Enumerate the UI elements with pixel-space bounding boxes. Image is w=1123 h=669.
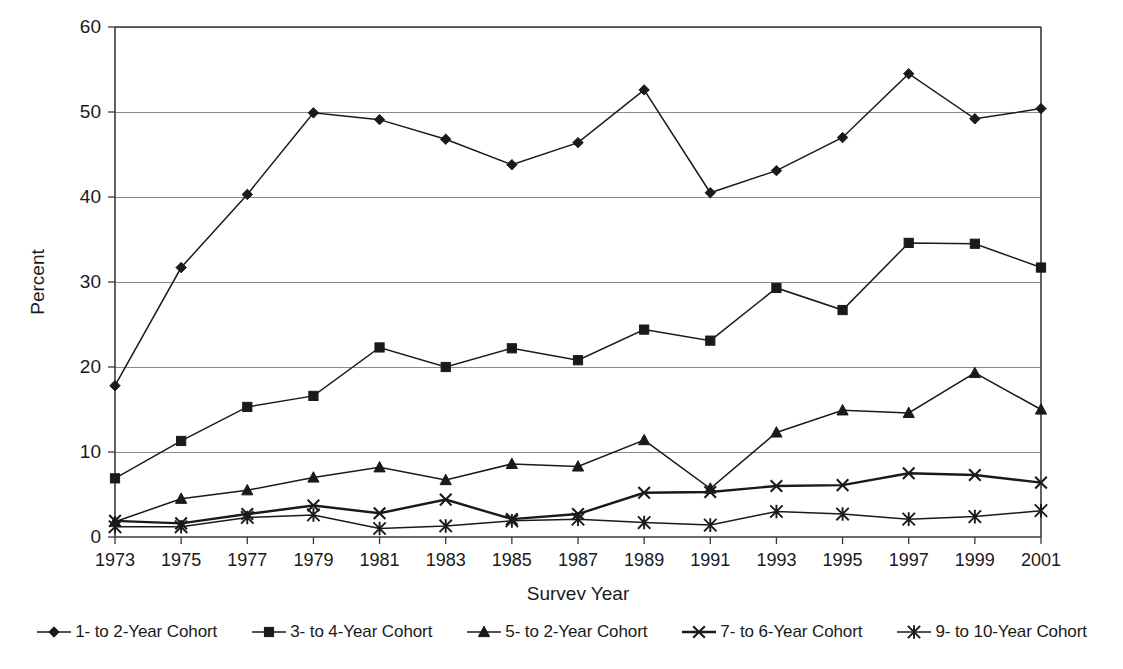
legend-label: 9- to 10-Year Cohort (935, 622, 1086, 642)
legend-item-1[interactable]: 1- to 2-Year Cohort (36, 622, 217, 642)
y-axis-title: Percent (27, 249, 48, 315)
x-tick-label: 1993 (756, 550, 796, 570)
y-tick-label: 30 (80, 271, 101, 292)
marker-square (573, 356, 582, 365)
marker-square (309, 391, 318, 400)
legend-marker-asterisk-icon (896, 623, 932, 641)
x-tick-label: 1985 (492, 550, 532, 570)
y-tick-label: 40 (80, 186, 101, 207)
marker-square (640, 325, 649, 334)
legend-item-4[interactable]: 7- to 6-Year Cohort (681, 622, 862, 642)
marker-square (265, 627, 274, 636)
legend-marker-cross-icon (681, 623, 717, 641)
marker-diamond (49, 627, 59, 637)
marker-diamond (970, 114, 980, 124)
x-tick-label: 1975 (161, 550, 201, 570)
y-tick-label: 60 (80, 16, 101, 37)
x-tick-label: 1991 (690, 550, 730, 570)
chart-figure: 0102030405060197319751977197919811983198… (0, 0, 1123, 669)
marker-diamond (705, 188, 715, 198)
marker-diamond (441, 134, 451, 144)
marker-square (838, 305, 847, 314)
legend-marker-square-icon (251, 623, 287, 641)
x-tick-label: 1989 (624, 550, 664, 570)
series-line-1 (115, 74, 1041, 386)
legend-label: 1- to 2-Year Cohort (75, 622, 217, 642)
series-5 (109, 504, 1047, 535)
x-tick-label: 1979 (293, 550, 333, 570)
marker-triangle (374, 462, 385, 472)
series-3 (109, 367, 1046, 526)
marker-triangle (837, 405, 848, 415)
x-tick-label: 1997 (889, 550, 929, 570)
x-tick-label: 1981 (360, 550, 400, 570)
marker-triangle (969, 367, 980, 377)
marker-square (441, 362, 450, 371)
legend-marker-diamond-icon (36, 623, 72, 641)
y-tick-label: 0 (90, 526, 101, 547)
marker-square (243, 402, 252, 411)
marker-triangle (1035, 404, 1046, 414)
x-tick-label: 1973 (95, 550, 135, 570)
marker-triangle (506, 458, 517, 468)
x-tick-label: 1983 (426, 550, 466, 570)
series-2 (110, 238, 1045, 483)
x-tick-label: 1995 (823, 550, 863, 570)
plot-container: 0102030405060197319751977197919811983198… (0, 0, 1123, 600)
marker-square (1036, 263, 1045, 272)
legend-item-2[interactable]: 3- to 4-Year Cohort (251, 622, 432, 642)
chart-legend: 1- to 2-Year Cohort3- to 4-Year Cohort5-… (0, 612, 1123, 652)
x-tick-label: 2001 (1021, 550, 1061, 570)
marker-square (110, 474, 119, 483)
marker-diamond (374, 114, 384, 124)
y-tick-label: 20 (80, 356, 101, 377)
line-chart-svg: 0102030405060197319751977197919811983198… (0, 0, 1123, 600)
y-tick-label: 10 (80, 441, 101, 462)
marker-square (706, 336, 715, 345)
marker-square (904, 238, 913, 247)
series-line-3 (115, 373, 1041, 522)
marker-square (772, 283, 781, 292)
legend-marker-triangle-icon (466, 623, 502, 641)
marker-diamond (771, 165, 781, 175)
x-tick-label: 1987 (558, 550, 598, 570)
legend-label: 5- to 2-Year Cohort (505, 622, 647, 642)
legend-label: 7- to 6-Year Cohort (720, 622, 862, 642)
x-tick-label: 1977 (227, 550, 267, 570)
marker-square (507, 344, 516, 353)
y-tick-label: 50 (80, 101, 101, 122)
x-tick-label: 1999 (955, 550, 995, 570)
x-axis-title: Survey Year (527, 583, 630, 600)
legend-item-3[interactable]: 5- to 2-Year Cohort (466, 622, 647, 642)
marker-square (970, 239, 979, 248)
marker-diamond (507, 160, 517, 170)
marker-square (375, 343, 384, 352)
series-1 (110, 69, 1046, 391)
legend-item-5[interactable]: 9- to 10-Year Cohort (896, 622, 1086, 642)
marker-diamond (110, 381, 120, 391)
marker-triangle (639, 434, 650, 444)
marker-square (177, 436, 186, 445)
legend-label: 3- to 4-Year Cohort (290, 622, 432, 642)
